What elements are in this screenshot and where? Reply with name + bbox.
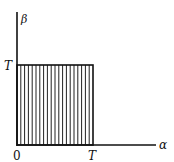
y-axis-label: β: [20, 13, 27, 26]
x-tick-label-T: T: [88, 149, 97, 162]
origin-label: 0: [13, 149, 21, 162]
y-tick-label-T: T: [4, 59, 13, 73]
x-axis-label: α: [159, 138, 167, 152]
hatched-region: [21, 65, 89, 145]
diagram-canvas: β α T T 0: [0, 0, 174, 162]
